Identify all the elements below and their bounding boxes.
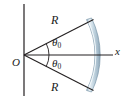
radius-label-upper: R <box>51 14 58 26</box>
angle-symbol-upper: θ <box>52 36 57 48</box>
angle-label-upper: θ0 <box>52 37 61 50</box>
angle-arc-lower <box>46 55 49 66</box>
angle-symbol-lower: θ <box>52 57 57 69</box>
origin-label: O <box>12 57 20 68</box>
radius-label-lower: R <box>51 81 58 93</box>
x-axis-label: x <box>115 46 120 57</box>
angle-subscript-upper: 0 <box>58 41 62 50</box>
angle-label-lower: θ0 <box>52 58 61 71</box>
figure-canvas <box>0 0 128 110</box>
angle-subscript-lower: 0 <box>58 62 62 71</box>
angle-arc-upper <box>46 44 49 55</box>
geometry-figure: R R O x θ0 θ0 <box>0 0 128 110</box>
